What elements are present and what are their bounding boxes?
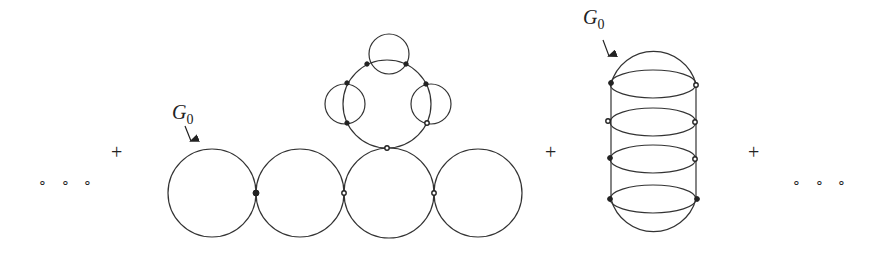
- vertex-open: [385, 146, 389, 150]
- vertex-open: [693, 157, 697, 161]
- g0-arrow-icon: [603, 40, 609, 56]
- vertex-open: [694, 83, 698, 87]
- vertex-filled: [608, 156, 613, 161]
- vertex-filled: [365, 62, 369, 66]
- chain-circle-2: [256, 149, 344, 237]
- vertex-filled: [609, 81, 614, 86]
- ladder-ellipse-3: [610, 145, 696, 173]
- capsule-top-arc: [611, 51, 696, 84]
- figure-2-capsule-ladder: [603, 40, 699, 232]
- ladder-ellipse-2: [610, 108, 696, 136]
- vertex-open: [432, 191, 436, 195]
- vertex-filled: [404, 62, 408, 66]
- ladder-ellipse-4: [610, 185, 696, 213]
- ring-circle: [343, 60, 431, 148]
- vertex-filled: [345, 121, 349, 125]
- bubble-top: [369, 34, 409, 74]
- vertex-open: [425, 121, 429, 125]
- vertex-filled: [424, 82, 428, 86]
- g0-arrow-icon: [185, 126, 191, 141]
- figure-1-circle-chain: [168, 34, 522, 238]
- vertex-filled: [695, 197, 700, 202]
- vertex-open: [693, 120, 697, 124]
- ladder-ellipse-1: [610, 70, 696, 98]
- vertex-filled: [345, 81, 349, 85]
- vertex-open: [342, 191, 346, 195]
- vertex-filled: [608, 197, 613, 202]
- vertex-filled: [253, 190, 259, 196]
- feynman-diagram-canvas: [0, 0, 871, 257]
- capsule-bottom-arc: [611, 199, 696, 232]
- chain-circle-4: [434, 149, 522, 237]
- chain-circle-3: [344, 148, 434, 238]
- vertex-open: [606, 119, 610, 123]
- chain-circle-1: [168, 149, 256, 237]
